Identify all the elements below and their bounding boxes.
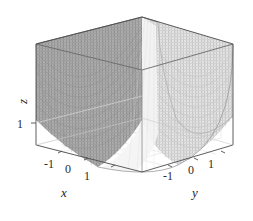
y-axis-tick-label-1: 1	[208, 158, 214, 170]
z-axis-title: z	[16, 99, 29, 104]
x-axis-tick-label-neg1: -1	[44, 158, 54, 170]
x-axis-title: x	[61, 186, 67, 199]
z-axis-tick-label-1: 1	[17, 118, 23, 130]
plot-canvas	[0, 0, 253, 221]
x-axis-tick-label-0: 0	[65, 163, 71, 175]
surface-mesh	[36, 17, 236, 172]
y-axis-tick-label-neg1: -1	[163, 170, 173, 182]
surface-plot-figure: -1 0 1 -1 0 1 1 x y z	[0, 0, 253, 221]
y-axis-title: y	[192, 186, 198, 199]
x-axis-tick-label-1: 1	[84, 170, 90, 182]
y-axis-tick-label-0: 0	[188, 164, 194, 176]
